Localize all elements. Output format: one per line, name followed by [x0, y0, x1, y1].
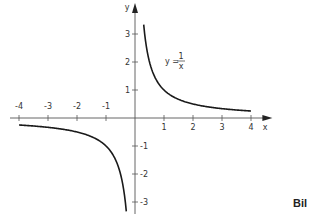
svg-text:3: 3: [125, 30, 130, 39]
svg-text:-2: -2: [140, 170, 148, 179]
positive-branch-curve: [144, 25, 251, 111]
svg-text:3: 3: [219, 123, 224, 132]
svg-text:4: 4: [248, 123, 253, 132]
function-annotation: y =1x: [165, 52, 185, 71]
svg-text:1: 1: [125, 86, 130, 95]
tick-labels: -4-3-2-11234-3-2-1123yx: [15, 3, 268, 207]
svg-text:-4: -4: [15, 102, 23, 111]
svg-text:1: 1: [161, 123, 166, 132]
svg-text:-3: -3: [140, 198, 148, 207]
svg-text:-3: -3: [44, 102, 52, 111]
svg-text:-2: -2: [73, 102, 81, 111]
svg-text:2: 2: [190, 123, 195, 132]
svg-text:2: 2: [125, 58, 130, 67]
svg-text:y: y: [125, 3, 130, 12]
x-axis-arrow-icon: [262, 115, 272, 121]
svg-text:x: x: [179, 62, 184, 71]
svg-text:y =: y =: [165, 57, 179, 66]
caption-fragment: Bil: [293, 197, 307, 209]
svg-text:1: 1: [178, 52, 183, 61]
hyperbola-chart: -4-3-2-11234-3-2-1123yx y =1x: [0, 0, 309, 214]
svg-text:x: x: [263, 123, 268, 132]
y-axis-arrow-icon: [132, 3, 138, 13]
svg-text:-1: -1: [140, 142, 148, 151]
negative-branch-curve: [19, 125, 126, 211]
svg-text:-1: -1: [102, 102, 110, 111]
